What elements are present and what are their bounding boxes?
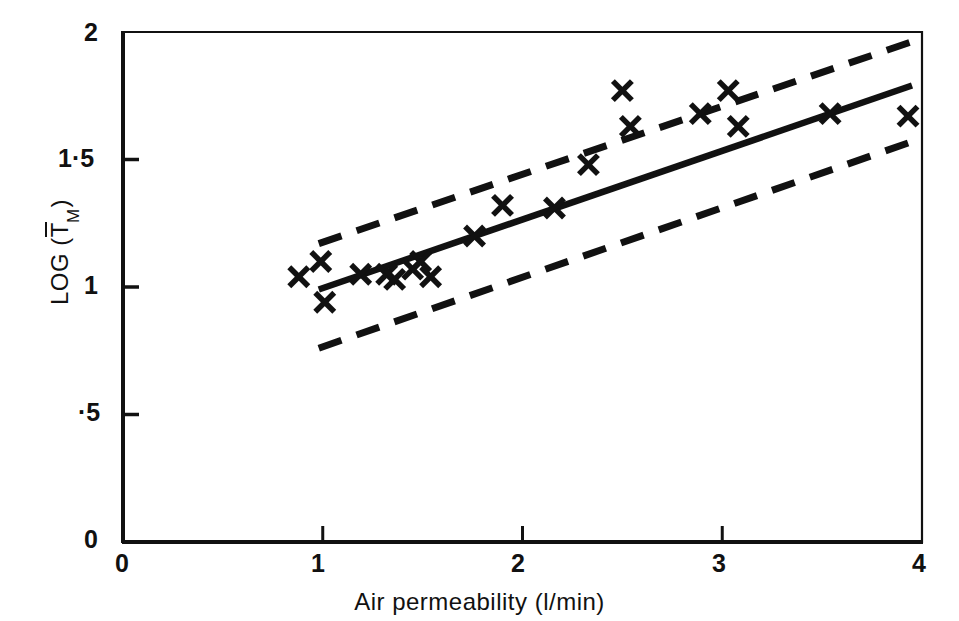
y-tick-label-2: 2 xyxy=(84,20,98,45)
x-tick-label-1: 1 xyxy=(311,551,325,576)
y-tick-label-0-5: ·5 xyxy=(78,400,100,425)
data-point xyxy=(579,155,598,174)
x-tick-label-3: 3 xyxy=(712,551,726,576)
plot-frame xyxy=(123,32,922,542)
data-point xyxy=(621,117,640,136)
data-point xyxy=(719,81,738,100)
x-tick-label-4: 4 xyxy=(912,551,926,576)
x-tick-label-0: 0 xyxy=(115,551,129,576)
chart-figure: 2 1·5 1 ·5 0 0 1 2 3 4 LOG (TM) Air perm… xyxy=(0,0,959,621)
scatter-plot-canvas xyxy=(0,0,959,621)
regression-line xyxy=(319,86,912,290)
y-axis-title-symbol: T xyxy=(45,222,72,237)
data-point xyxy=(315,293,334,312)
x-axis-title: Air permeability (l/min) xyxy=(0,588,959,616)
data-point xyxy=(729,117,748,136)
data-point xyxy=(613,81,632,100)
y-axis-title: LOG (TM) xyxy=(42,152,82,352)
upper-confidence-band xyxy=(319,40,918,244)
x-axis-title-text: Air permeability (l/min) xyxy=(354,588,605,615)
data-point xyxy=(899,107,918,126)
data-point xyxy=(493,196,512,215)
x-tick-label-2: 2 xyxy=(511,551,525,576)
y-axis-title-prefix: LOG ( xyxy=(46,237,73,305)
lower-confidence-band xyxy=(319,142,912,349)
y-tick-label-1: 1 xyxy=(84,273,98,298)
y-tick-label-0: 0 xyxy=(84,527,98,552)
y-axis-title-subscript: M xyxy=(64,208,83,223)
data-point xyxy=(311,252,330,271)
data-point xyxy=(289,267,308,286)
y-axis-title-suffix: ) xyxy=(46,199,73,208)
